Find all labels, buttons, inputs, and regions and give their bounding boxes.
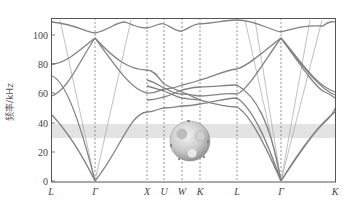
y-tick-40: 40 [38, 118, 48, 129]
x-tick-K2: K [331, 186, 340, 197]
x-tick-labels: L Γ X U W K L Γ K [47, 186, 339, 197]
y-tick-80: 80 [38, 59, 48, 70]
x-tick-L1: L [47, 186, 54, 197]
y-tick-20: 20 [38, 147, 48, 158]
y-tick-100: 100 [33, 30, 48, 41]
x-tick-X: X [143, 186, 151, 197]
y-axis-label: 频率/kHz [3, 83, 16, 121]
y-tick-60: 60 [38, 88, 48, 99]
y-tick-labels: 0 20 40 60 80 100 [33, 30, 48, 187]
x-tick-U: U [160, 186, 168, 197]
x-tick-Gamma1: Γ [91, 186, 98, 197]
x-tick-W: W [178, 186, 188, 197]
band-structure-chart: 0 20 40 60 80 100 L Γ X U W K L Γ K [0, 0, 354, 211]
x-tick-K1: K [196, 186, 205, 197]
x-tick-Gamma2: Γ [277, 186, 284, 197]
x-tick-L2: L [233, 186, 240, 197]
